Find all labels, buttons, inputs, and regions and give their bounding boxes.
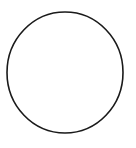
circle-outline bbox=[7, 12, 123, 133]
diagram-canvas bbox=[0, 0, 136, 148]
circle-diagram bbox=[0, 0, 136, 148]
